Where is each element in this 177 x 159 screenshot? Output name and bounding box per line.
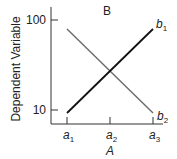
series-label-b1: b1 bbox=[156, 17, 168, 33]
interaction-plot: 100 10 a1 a2 a3 A Dependent Variable B b… bbox=[0, 0, 177, 159]
x-axis-label: A bbox=[105, 144, 114, 158]
x-tick-label-a3: a3 bbox=[149, 128, 161, 144]
chart-title: B bbox=[103, 4, 111, 18]
x-tick-label-a2: a2 bbox=[106, 128, 118, 144]
y-tick-label-100: 100 bbox=[26, 13, 46, 27]
series-label-b2: b2 bbox=[157, 109, 169, 125]
x-tick-label-a1: a1 bbox=[63, 128, 75, 144]
y-tick-label-10: 10 bbox=[33, 103, 47, 117]
y-axis-label: Dependent Variable bbox=[9, 16, 23, 122]
